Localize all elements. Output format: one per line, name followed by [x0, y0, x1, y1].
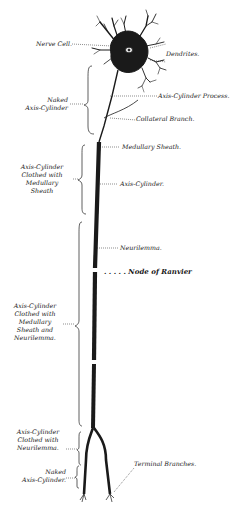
label-neurilemma: Neurilemma. [120, 244, 162, 252]
label-line: Sheath and [6, 326, 64, 334]
label-line: Naked [8, 468, 66, 476]
label-nerve-cell: Nerve Cell. [20, 40, 72, 48]
label-line: Sheath [12, 187, 72, 195]
label-line: Neurilemma. [6, 334, 64, 342]
axon [80, 70, 138, 502]
label-line: Clothed with [12, 171, 72, 179]
nerve-cell-body [110, 31, 148, 72]
label-line: Axis-Cylinder [8, 104, 68, 112]
label-dendrites: Dendrites. [166, 50, 199, 58]
label-clothed-both: Axis-Cylinder Clothed with Medullary She… [6, 302, 64, 342]
label-terminal-branches: Terminal Branches. [134, 460, 196, 468]
label-line: Neurilemma. [10, 444, 66, 452]
label-line: Axis-Cylinder [6, 302, 64, 310]
label-line: Clothed with [10, 436, 66, 444]
label-collateral-branch: Collateral Branch. [136, 115, 194, 123]
label-naked-axis-cylinder-bottom: Naked Axis-Cylinder. [8, 468, 66, 484]
label-naked-axis-cylinder-top: Naked Axis-Cylinder [8, 96, 68, 112]
label-clothed-neurilemma: Axis-Cylinder Clothed with Neurilemma. [10, 428, 66, 452]
label-line: Axis-Cylinder [12, 163, 72, 171]
node-of-ranvier-gap-2 [91, 360, 97, 364]
label-line: Clothed with [6, 310, 64, 318]
label-line: Axis-Cylinder [10, 428, 66, 436]
label-axis-cylinder-process: Axis-Cylinder Process. [158, 92, 229, 100]
label-line: Naked [8, 96, 68, 104]
label-node-of-ranvier: . . . . . Node of Ranvier [104, 268, 192, 276]
label-axis-cylinder: Axis-Cylinder. [120, 180, 164, 188]
label-medullary-sheath: Medullary Sheath. [122, 143, 181, 151]
label-line: Medullary [12, 179, 72, 187]
node-of-ranvier-gap [92, 268, 98, 272]
label-line: Axis-Cylinder. [8, 476, 66, 484]
label-clothed-medullary: Axis-Cylinder Clothed with Medullary She… [12, 163, 72, 195]
label-line: Medullary [6, 318, 64, 326]
